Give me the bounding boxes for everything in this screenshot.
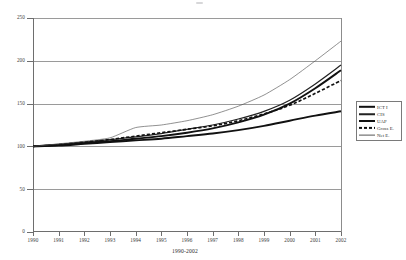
x-axis-label: 1994 <box>123 238 149 243</box>
x-axis-label: 2002 <box>328 238 354 243</box>
legend-item: Gross E. <box>359 125 399 132</box>
x-axis-label: 1990 <box>20 238 46 243</box>
legend: ICT ICISUAPGross E.Net E. <box>356 101 402 141</box>
x-axis-tick <box>33 232 34 236</box>
x-axis-tick <box>238 232 239 236</box>
legend-item: ICT I <box>359 104 399 111</box>
legend-label: CIS <box>377 112 385 117</box>
x-axis-label: 1991 <box>46 238 72 243</box>
x-axis-label: 1993 <box>97 238 123 243</box>
legend-item: CIS <box>359 111 399 118</box>
legend-swatch-icon <box>359 118 375 125</box>
series-line <box>33 41 341 146</box>
legend-label: Gross E. <box>377 126 394 131</box>
legend-item: Net E. <box>359 132 399 139</box>
legend-swatch-icon <box>359 104 375 111</box>
legend-swatch-icon <box>359 132 375 139</box>
x-axis-tick <box>110 232 111 236</box>
x-axis-tick <box>136 232 137 236</box>
x-axis-tick <box>315 232 316 236</box>
legend-swatch-icon <box>359 125 375 132</box>
legend-label: UAP <box>377 119 387 124</box>
series-line <box>33 70 341 146</box>
x-axis-label: 2001 <box>302 238 328 243</box>
x-axis-label: 1995 <box>148 238 174 243</box>
series-line <box>33 65 341 146</box>
line-chart: 050100150200250 199019911992199319941995… <box>0 0 406 260</box>
x-axis-title: 1990-2002 <box>0 248 370 254</box>
x-axis-label: 1999 <box>251 238 277 243</box>
x-axis-label: 1997 <box>200 238 226 243</box>
x-axis-label: 1992 <box>71 238 97 243</box>
x-axis-label: 2000 <box>277 238 303 243</box>
legend-label: ICT I <box>377 105 388 110</box>
x-axis-tick <box>161 232 162 236</box>
x-axis-tick <box>264 232 265 236</box>
x-axis-tick <box>213 232 214 236</box>
legend-label: Net E. <box>377 133 390 138</box>
x-axis-label: 1996 <box>174 238 200 243</box>
x-axis-tick <box>290 232 291 236</box>
legend-item: UAP <box>359 118 399 125</box>
x-axis-tick <box>187 232 188 236</box>
x-axis-tick <box>59 232 60 236</box>
x-axis-tick <box>84 232 85 236</box>
series-layer <box>0 0 406 260</box>
x-axis-tick <box>341 232 342 236</box>
x-axis-label: 1998 <box>225 238 251 243</box>
legend-swatch-icon <box>359 111 375 118</box>
